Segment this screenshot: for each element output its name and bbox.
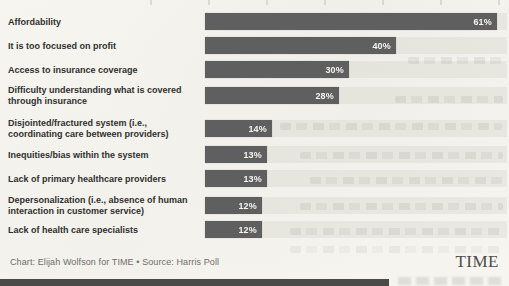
print-artifact xyxy=(408,57,503,64)
bar: 12% xyxy=(205,197,262,214)
category-label: Inequities/bias within the system xyxy=(8,149,202,160)
bar: 13% xyxy=(205,146,267,163)
print-artifact xyxy=(398,277,506,285)
time-logo: TIME xyxy=(455,252,499,272)
category-label: Depersonalization (i.e., absence of huma… xyxy=(8,195,202,217)
bar-value-label: 12% xyxy=(238,201,262,211)
bar: 40% xyxy=(205,37,396,54)
bar-value-label: 61% xyxy=(473,17,497,27)
category-label: It is too focused on profit xyxy=(8,40,202,51)
bar-value-label: 12% xyxy=(238,225,262,235)
category-label: Lack of health care specialists xyxy=(8,224,202,235)
chart-row: It is too focused on profit40% xyxy=(0,37,509,54)
chart-credit: Chart: Elijah Wolfson for TIME • Source:… xyxy=(10,257,219,267)
print-artifact xyxy=(300,203,503,210)
print-artifact xyxy=(280,123,502,130)
category-label: Lack of primary healthcare providers xyxy=(8,173,202,184)
bar-track: 61% xyxy=(205,13,507,30)
print-artifact xyxy=(290,228,503,235)
category-label: Difficulty understanding what is covered… xyxy=(8,85,202,107)
bar: 28% xyxy=(205,87,339,104)
print-artifact xyxy=(395,96,503,103)
bar-value-label: 13% xyxy=(243,174,267,184)
bar: 12% xyxy=(205,221,262,238)
print-artifact xyxy=(300,152,503,159)
bar-value-label: 30% xyxy=(325,65,349,75)
print-artifact xyxy=(310,177,503,184)
bar-chart: Affordability61%It is too focused on pro… xyxy=(0,0,509,286)
bar-value-label: 13% xyxy=(243,150,267,160)
chart-row: Affordability61% xyxy=(0,13,509,30)
bar: 14% xyxy=(205,120,272,137)
bar-value-label: 28% xyxy=(315,91,339,101)
bar-track: 40% xyxy=(205,37,507,54)
bar: 61% xyxy=(205,13,497,30)
category-label: Affordability xyxy=(8,16,202,27)
bar: 13% xyxy=(205,170,267,187)
bar: 30% xyxy=(205,61,349,78)
bar-value-label: 40% xyxy=(372,41,396,51)
category-label: Access to insurance coverage xyxy=(8,64,202,75)
bar-value-label: 14% xyxy=(248,124,272,134)
clipped-next-element xyxy=(0,279,389,286)
category-label: Disjointed/fractured system (i.e., coord… xyxy=(8,118,202,140)
